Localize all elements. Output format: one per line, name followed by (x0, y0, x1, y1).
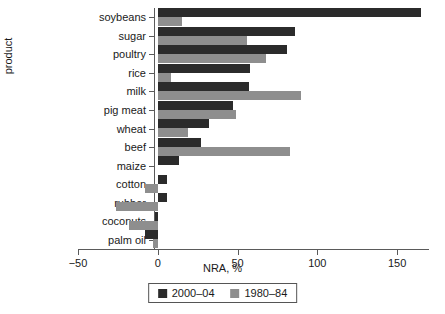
bar-wheat-older (158, 128, 188, 137)
bar-maize-recent (158, 156, 179, 165)
legend-label: 2000–04 (172, 287, 215, 299)
bar-palm-oil-recent (145, 230, 158, 239)
bar-rice-older (158, 73, 171, 82)
bar-sugar-recent (158, 27, 295, 36)
x-axis-tick (78, 250, 79, 255)
y-axis-tick (149, 36, 154, 37)
x-axis-tick (317, 250, 318, 255)
nra-by-product-bar-chart: product soybeanssugarpoultryricemilkpig … (0, 0, 445, 314)
bar-beef-older (158, 147, 290, 156)
bar-cotton-older (145, 184, 158, 193)
x-axis-title: NRA, % (0, 262, 445, 274)
plot-area: −50050100150 (78, 8, 421, 249)
bar-wheat-recent (158, 119, 209, 128)
legend-item-198084: 1980–84 (231, 287, 288, 299)
y-axis-tick (149, 91, 154, 92)
bar-milk-older (158, 91, 302, 100)
y-axis-tick (149, 166, 154, 167)
x-axis-line (78, 249, 429, 250)
legend-item-200004: 2000–04 (158, 287, 215, 299)
legend-label: 1980–84 (245, 287, 288, 299)
x-axis-tick (397, 250, 398, 255)
bar-pig-meat-older (158, 110, 236, 119)
legend-swatch-recent (158, 289, 167, 298)
bar-coconuts-older (129, 221, 158, 230)
bar-beef-recent (158, 138, 201, 147)
y-axis-tick (149, 17, 154, 18)
bar-coconuts-recent (155, 212, 158, 221)
bar-cotton-recent (158, 175, 168, 184)
bar-soybeans-recent (158, 8, 421, 17)
y-axis-tick (149, 147, 154, 148)
y-axis-tick (149, 110, 154, 111)
bar-soybeans-older (158, 17, 182, 26)
y-axis-tick (149, 129, 154, 130)
bar-poultry-recent (158, 45, 287, 54)
x-axis-tick (158, 250, 159, 255)
y-axis-tick (149, 54, 154, 55)
bar-rice-recent (158, 64, 251, 73)
legend-swatch-older (231, 289, 240, 298)
bar-pig-meat-recent (158, 101, 233, 110)
bar-palm-oil-older (153, 239, 158, 248)
bar-sugar-older (158, 36, 247, 45)
bar-rubber-older (116, 202, 157, 211)
chart-legend: 2000–041980–84 (148, 283, 298, 303)
bar-poultry-older (158, 54, 266, 63)
bar-milk-recent (158, 82, 249, 91)
x-axis-tick (238, 250, 239, 255)
bar-rubber-recent (158, 193, 168, 202)
y-axis-tick (149, 73, 154, 74)
